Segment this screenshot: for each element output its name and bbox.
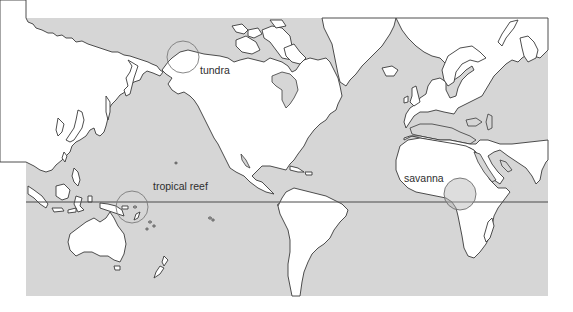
zone-marker-savanna[interactable] — [444, 178, 476, 210]
label-tundra: tundra — [200, 64, 230, 76]
island-fiji — [149, 221, 152, 223]
landmass-tasmania — [114, 266, 120, 270]
label-savanna: savanna — [404, 172, 444, 184]
landmass-solomon-islands — [122, 206, 128, 209]
island-hawaii — [175, 162, 177, 164]
island-samoa-2 — [212, 219, 215, 221]
landmass-java — [52, 208, 64, 212]
island-fiji-2 — [153, 225, 156, 227]
island-pacific — [133, 206, 136, 208]
landmass-hispaniola — [305, 172, 312, 175]
landmass-small-island — [88, 196, 92, 202]
label-tropical-reef: tropical reef — [153, 180, 208, 192]
world-map: tundra tropical reef savanna — [0, 0, 573, 312]
island-samoa — [209, 217, 212, 219]
island-new-caledonia — [146, 228, 148, 230]
